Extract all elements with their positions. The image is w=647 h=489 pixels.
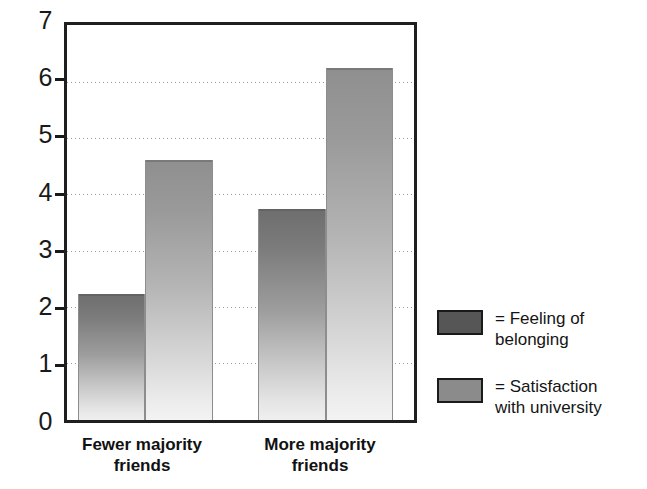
y-tick-label-6: 6 xyxy=(22,65,52,90)
x-axis-label-fewer-majority-friends: Fewer majority friends xyxy=(62,434,222,476)
plot-inner xyxy=(67,25,414,420)
legend-label-satisfaction: = Satisfaction with university xyxy=(495,376,602,418)
bar-top-edge xyxy=(79,294,144,296)
y-tick-label-4: 4 xyxy=(22,180,52,205)
bar-top-edge xyxy=(259,209,325,211)
bar-top-edge xyxy=(327,68,392,70)
y-tick-label-0: 0 xyxy=(22,409,52,434)
bar-top-edge xyxy=(146,160,212,162)
plot-area xyxy=(64,22,417,423)
bar-more-satisfaction xyxy=(326,68,393,420)
y-tick-label-5: 5 xyxy=(22,122,52,147)
legend-item-satisfaction-with-university: = Satisfaction with university xyxy=(437,376,602,418)
legend-item-feeling-of-belonging: = Feeling of belonging xyxy=(437,308,584,350)
legend-label-belonging: = Feeling of belonging xyxy=(495,308,584,350)
bar-fewer-satisfaction xyxy=(145,160,213,420)
y-tick-label-1: 1 xyxy=(22,351,52,376)
x-axis-label-more-majority-friends: More majority friends xyxy=(240,434,400,476)
bar-more-belonging xyxy=(258,209,326,420)
legend-swatch-satisfaction xyxy=(437,378,483,403)
legend-swatch-belonging xyxy=(437,310,483,335)
y-tick-label-7: 7 xyxy=(22,8,52,33)
bar-chart: 7 6 5 4 3 2 1 0 xyxy=(0,0,647,489)
bar-fewer-belonging xyxy=(78,294,145,420)
y-tick-label-3: 3 xyxy=(22,237,52,262)
y-tick-label-2: 2 xyxy=(22,294,52,319)
